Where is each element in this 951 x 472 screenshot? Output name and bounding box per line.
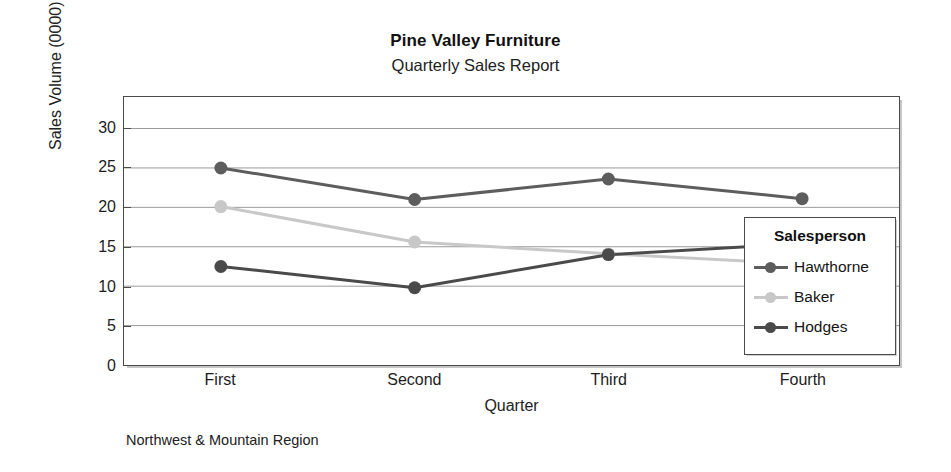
- data-point: [796, 192, 809, 205]
- legend-item-hawthorne[interactable]: Hawthorne: [745, 252, 895, 282]
- data-point: [408, 281, 421, 294]
- x-axis-title: Quarter: [123, 397, 900, 415]
- x-tick-label: Fourth: [780, 371, 826, 389]
- data-point: [408, 193, 421, 206]
- y-tick-mark: [123, 128, 131, 129]
- series-line-hawthorne: [221, 168, 802, 200]
- y-tick-label: 5: [76, 317, 116, 335]
- legend-swatch-icon: [754, 260, 788, 274]
- legend-items: HawthorneBakerHodges: [745, 252, 895, 342]
- y-tick-label: 10: [76, 278, 116, 296]
- y-tick-label: 25: [76, 158, 116, 176]
- data-point: [602, 248, 615, 261]
- y-tick-mark: [123, 247, 131, 248]
- data-point: [214, 260, 227, 273]
- data-point: [214, 161, 227, 174]
- chart-footnote: Northwest & Mountain Region: [126, 432, 319, 448]
- series-line-baker: [221, 207, 802, 265]
- series-line-hodges: [221, 244, 802, 288]
- y-tick-mark: [123, 326, 131, 327]
- x-tick-label: Second: [387, 371, 441, 389]
- x-tick-label: Third: [590, 371, 626, 389]
- data-point: [602, 173, 615, 186]
- legend-label: Hodges: [794, 318, 847, 336]
- legend-label: Hawthorne: [794, 258, 869, 276]
- data-point: [214, 200, 227, 213]
- y-tick-label: 30: [76, 119, 116, 137]
- legend: Salesperson HawthorneBakerHodges: [744, 217, 896, 355]
- y-tick-label: 20: [76, 198, 116, 216]
- chart-figure: Pine Valley Furniture Quarterly Sales Re…: [0, 0, 951, 472]
- y-tick-label: 0: [76, 357, 116, 375]
- y-axis-title: Sales Volume (0000): [47, 0, 65, 150]
- x-tick-label: First: [205, 371, 236, 389]
- chart-title: Pine Valley Furniture: [0, 30, 951, 52]
- legend-item-baker[interactable]: Baker: [745, 282, 895, 312]
- y-tick-mark: [123, 207, 131, 208]
- legend-item-hodges[interactable]: Hodges: [745, 312, 895, 342]
- y-tick-label: 15: [76, 238, 116, 256]
- data-point: [408, 236, 421, 249]
- chart-title-block: Pine Valley Furniture Quarterly Sales Re…: [0, 30, 951, 76]
- legend-title: Salesperson: [745, 227, 895, 245]
- y-tick-mark: [123, 287, 131, 288]
- chart-subtitle: Quarterly Sales Report: [0, 55, 951, 76]
- y-tick-mark: [123, 167, 131, 168]
- legend-swatch-icon: [754, 320, 788, 334]
- legend-swatch-icon: [754, 290, 788, 304]
- y-axis-tick-labels: 051015202530: [72, 96, 116, 366]
- legend-label: Baker: [794, 288, 835, 306]
